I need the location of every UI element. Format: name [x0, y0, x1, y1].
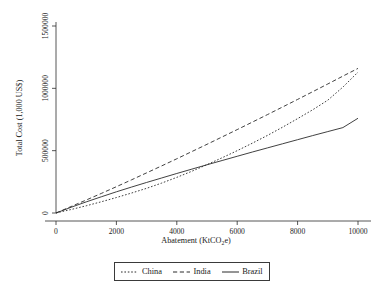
- legend-label: China: [142, 267, 162, 276]
- y-axis-title: Total Cost (1,000 US$): [15, 80, 24, 157]
- x-tick-label: 8000: [290, 227, 305, 236]
- y-tick-marks: [52, 26, 56, 213]
- series-line-china: [56, 72, 358, 213]
- x-tick-labels: 0200040006000800010000: [54, 227, 368, 236]
- legend-swatch-dashed: [173, 268, 190, 276]
- x-axis-title: Abatement (KtCO2e): [161, 236, 231, 246]
- legend-item-china[interactable]: China: [121, 267, 162, 276]
- x-axis-title-tail: e): [224, 236, 231, 245]
- x-tick-label: 4000: [169, 227, 184, 236]
- x-tick-marks: [56, 221, 358, 225]
- y-tick-labels: 050000010000001500000: [41, 13, 50, 215]
- y-tick-label: 1500000: [41, 13, 50, 40]
- legend-item-brazil[interactable]: Brazil: [222, 267, 263, 276]
- line-chart-canvas: 050000010000001500000 Total Cost (1,000 …: [0, 0, 381, 291]
- legend-label: India: [193, 267, 210, 276]
- y-tick-label: 0: [41, 211, 50, 215]
- x-axis: 0200040006000800010000 Abatement (KtCO2e…: [45, 221, 371, 246]
- x-tick-label: 2000: [109, 227, 124, 236]
- series-line-brazil: [56, 118, 358, 213]
- series-line-india: [56, 68, 358, 213]
- x-tick-label: 10000: [349, 227, 368, 236]
- y-tick-label: 500000: [41, 139, 50, 162]
- y-axis: 050000010000001500000 Total Cost (1,000 …: [15, 13, 56, 215]
- y-tick-label: 1000000: [41, 75, 50, 102]
- x-tick-label: 6000: [230, 227, 245, 236]
- x-tick-label: 0: [54, 227, 58, 236]
- chart-figure: 050000010000001500000 Total Cost (1,000 …: [0, 0, 381, 291]
- legend-swatch-dotted: [121, 268, 138, 276]
- x-axis-title-main: Abatement (KtCO: [161, 236, 221, 245]
- series-group: [56, 68, 358, 213]
- legend-label: Brazil: [242, 267, 262, 276]
- legend-swatch-solid: [222, 268, 239, 276]
- chart-legend: ChinaIndiaBrazil: [114, 262, 270, 281]
- legend-item-india[interactable]: India: [173, 267, 211, 276]
